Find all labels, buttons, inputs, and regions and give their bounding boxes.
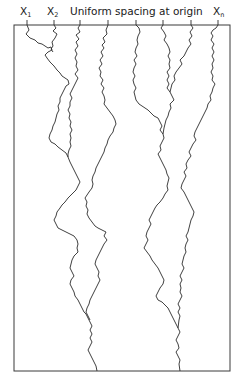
path-x1: [26, 20, 69, 157]
frame-border: [14, 25, 230, 371]
path-x3: [54, 20, 97, 371]
path-x6: [144, 20, 178, 328]
path-x4: [85, 20, 116, 320]
paths-canvas: [0, 0, 242, 383]
path-x8: [176, 20, 218, 371]
path-x7: [170, 20, 193, 92]
coalescing-paths-diagram: X1 X2 Uniform spacing at origin Xn: [0, 0, 242, 383]
path-x5: [133, 20, 163, 134]
